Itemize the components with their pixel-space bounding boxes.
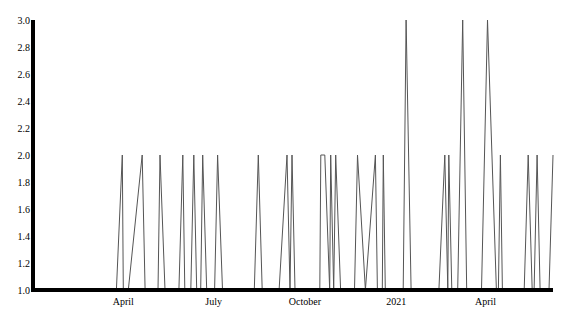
x-tick-label: October bbox=[289, 296, 322, 307]
y-tick-label: 2.6 bbox=[18, 69, 31, 80]
y-tick-label: 2.4 bbox=[18, 96, 31, 107]
x-tick-label: 2021 bbox=[386, 296, 406, 307]
y-tick-label: 2.8 bbox=[18, 42, 31, 53]
y-tick-label: 2.0 bbox=[18, 150, 31, 161]
y-tick-label: 2.2 bbox=[18, 123, 31, 134]
data-series-line bbox=[33, 20, 553, 290]
y-axis-ticks: 1.01.21.41.61.82.02.22.42.62.83.0 bbox=[18, 15, 31, 296]
y-tick-label: 1.8 bbox=[18, 177, 31, 188]
x-tick-label: July bbox=[205, 296, 222, 307]
x-tick-label: April bbox=[113, 296, 134, 307]
line-chart: 1.01.21.41.61.82.02.22.42.62.83.0 AprilJ… bbox=[0, 0, 569, 318]
x-axis-ticks: AprilJulyOctober2021April bbox=[113, 296, 497, 307]
y-tick-label: 1.4 bbox=[18, 231, 31, 242]
y-tick-label: 1.6 bbox=[18, 204, 31, 215]
y-tick-label: 1.0 bbox=[18, 285, 31, 296]
y-tick-label: 1.2 bbox=[18, 258, 31, 269]
y-tick-label: 3.0 bbox=[18, 15, 31, 26]
x-tick-label: April bbox=[475, 296, 496, 307]
